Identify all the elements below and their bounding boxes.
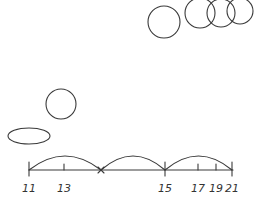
lone-circle [46,89,76,119]
tick-label-19: 19 [209,182,223,195]
circle-single [46,89,76,119]
tick-label-21: 21 [225,182,239,195]
arc-2 [101,156,165,170]
arc-1 [29,156,101,170]
tick-label-11: 11 [22,182,36,195]
tick-label-13: 13 [57,182,71,195]
tick-label-17: 17 [191,182,205,195]
number-line [29,162,233,176]
flat-ellipse [8,128,50,144]
number-line-arcs [29,156,232,170]
number-line-diagram: 111315171921 [0,0,263,209]
ellipse [8,128,50,144]
tick-label-15: 15 [158,182,172,195]
circle-3 [207,0,235,27]
tick-labels: 111315171921 [22,182,239,195]
top-circles [148,0,253,38]
circle-1 [148,6,180,38]
